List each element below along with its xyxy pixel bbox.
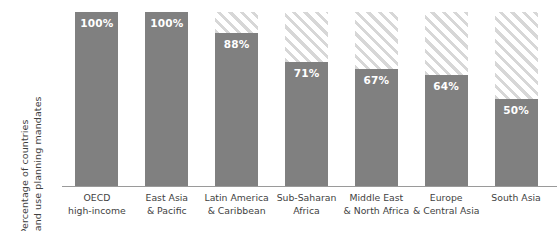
x-axis-tick-label-line: & North Africa [341, 205, 411, 218]
bar-value-label: 100% [145, 17, 188, 29]
bar-stack: 88% [215, 12, 258, 186]
x-axis-tick-label-line: & Pacific [132, 205, 202, 218]
bar-segment: 88% [215, 33, 258, 186]
bar-segment: 71% [285, 62, 328, 186]
bar-remainder-hatched [425, 12, 468, 75]
bar-stack: 67% [355, 12, 398, 186]
bar-group: 88% [215, 12, 258, 186]
x-axis-tick-label: Latin America& Caribbean [202, 192, 272, 217]
bar-value-label: 50% [495, 104, 538, 116]
bar-remainder-hatched [355, 12, 398, 69]
y-axis-title-line-1: Percentage of countries [19, 119, 30, 231]
x-axis-line [62, 186, 557, 187]
x-axis-tick-label-line: Latin America [204, 192, 268, 203]
bar-value-label: 88% [215, 38, 258, 50]
bar-remainder-hatched [495, 12, 538, 99]
bar-group: 100% [145, 12, 188, 186]
bar-group: 64% [425, 12, 468, 186]
x-axis-tick-label: Europe& Central Asia [411, 192, 481, 217]
x-axis-tick-label: OECDhigh-income [62, 192, 132, 217]
x-axis-tick-label-line: Middle East [349, 192, 403, 203]
bar-group: 50% [495, 12, 538, 186]
bar-chart: Percentage of countries with land use pl… [0, 0, 557, 231]
bar-stack: 100% [75, 12, 118, 186]
plot-area: 100%100%88%71%67%64%50% [62, 12, 551, 186]
bar-stack: 64% [425, 12, 468, 186]
x-axis-tick-label-line: Africa [272, 205, 342, 218]
bar-group: 71% [285, 12, 328, 186]
bar-group: 67% [355, 12, 398, 186]
x-axis-tick-labels: OECDhigh-incomeEast Asia& PacificLatin A… [62, 192, 551, 226]
x-axis-tick-label-line: East Asia [146, 192, 189, 203]
x-axis-tick-label-line: & Caribbean [202, 205, 272, 218]
bar-segment: 100% [145, 12, 188, 186]
x-axis-tick-label-line: Sub-Saharan [277, 192, 337, 203]
bar-segment: 67% [355, 69, 398, 186]
x-axis-tick-label-line: South Asia [491, 192, 540, 203]
x-axis-tick-label-line: high-income [62, 205, 132, 218]
bar-value-label: 67% [355, 74, 398, 86]
bar-segment: 100% [75, 12, 118, 186]
bar-segment: 64% [425, 75, 468, 186]
bar-stack: 50% [495, 12, 538, 186]
x-axis-tick-label-line: Europe [430, 192, 463, 203]
x-axis-tick-label: East Asia& Pacific [132, 192, 202, 217]
bar-value-label: 64% [425, 80, 468, 92]
bar-group: 100% [75, 12, 118, 186]
bar-remainder-hatched [215, 12, 258, 33]
y-axis-title-line-2: with land use planning mandates [31, 96, 44, 231]
bar-value-label: 71% [285, 67, 328, 79]
y-axis-title: Percentage of countries with land use pl… [0, 0, 62, 190]
x-axis-tick-label: South Asia [481, 192, 551, 205]
x-axis-tick-label: Sub-SaharanAfrica [272, 192, 342, 217]
bar-stack: 71% [285, 12, 328, 186]
bar-remainder-hatched [285, 12, 328, 62]
bar-stack: 100% [145, 12, 188, 186]
x-axis-tick-label-line: & Central Asia [411, 205, 481, 218]
x-axis-tick-label: Middle East& North Africa [341, 192, 411, 217]
x-axis-tick-label-line: OECD [84, 192, 111, 203]
bar-segment: 50% [495, 99, 538, 186]
bar-value-label: 100% [75, 17, 118, 29]
